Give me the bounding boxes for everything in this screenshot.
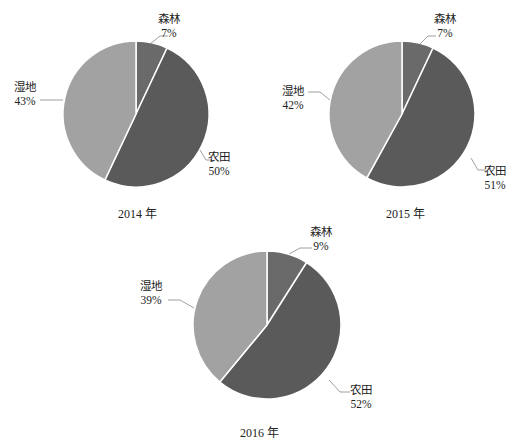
- caption-2016: 2016 年: [240, 423, 279, 441]
- leader-line: [289, 248, 312, 254]
- label-forest-2016: 森林9%: [310, 225, 332, 253]
- label-wetland-2016: 湿地39%: [140, 279, 162, 307]
- label-forest-2015: 森林7%: [434, 12, 456, 40]
- caption-2015: 2015 年: [386, 204, 425, 222]
- pie-2015: [308, 36, 486, 187]
- label-forest-2014: 森林7%: [158, 12, 180, 40]
- label-farmland-2015: 农田51%: [484, 164, 506, 192]
- caption-2014: 2014 年: [118, 204, 157, 222]
- leader-line: [329, 380, 350, 392]
- pie-2014: [40, 36, 212, 187]
- leader-line: [308, 92, 330, 100]
- label-farmland-2014: 农田50%: [208, 150, 230, 178]
- label-wetland-2015: 湿地42%: [282, 84, 304, 112]
- pie-2016: [168, 248, 350, 399]
- label-farmland-2016: 农田52%: [350, 383, 372, 411]
- pie-charts-canvas: [0, 0, 524, 446]
- label-wetland-2014: 湿地43%: [14, 80, 36, 108]
- leader-line: [168, 300, 194, 308]
